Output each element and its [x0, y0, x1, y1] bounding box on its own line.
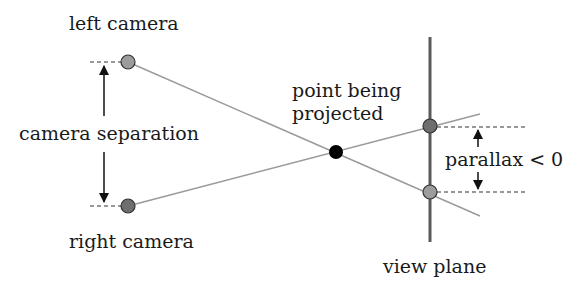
projected-point [329, 145, 343, 159]
label-point-being: point being [292, 79, 401, 101]
left-camera-point [121, 55, 135, 69]
lower-projection-point [423, 185, 437, 199]
upper-projection-point [423, 119, 437, 133]
right-camera-point [121, 199, 135, 213]
label-projected: projected [292, 102, 384, 124]
label-right-camera: right camera [69, 230, 194, 252]
stereo-parallax-diagram: left camera camera separation right came… [0, 0, 588, 290]
label-camera-separation: camera separation [19, 122, 199, 144]
label-view-plane: view plane [382, 255, 486, 277]
label-left-camera: left camera [69, 12, 179, 34]
label-parallax: parallax < 0 [445, 148, 563, 170]
